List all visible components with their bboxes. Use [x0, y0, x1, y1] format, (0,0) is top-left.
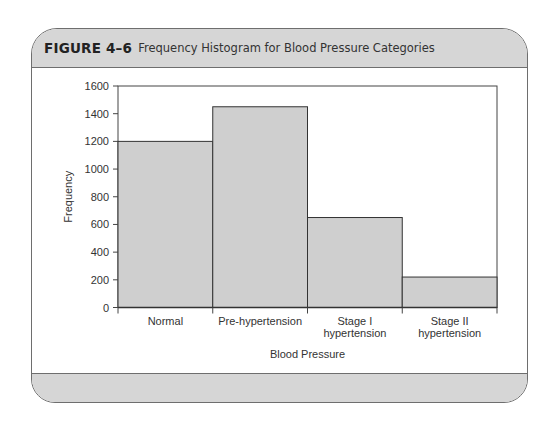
x-category-label: Stage II	[431, 315, 469, 327]
x-category-label: hypertension	[323, 327, 386, 339]
y-tick-label: 1400	[85, 108, 109, 120]
y-tick-label: 0	[103, 302, 109, 314]
y-tick-label: 800	[91, 191, 109, 203]
histogram-bar	[118, 141, 213, 307]
x-axis-title: Blood Pressure	[270, 348, 345, 360]
x-category-label: Pre-hypertension	[218, 315, 302, 327]
y-tick-label: 400	[91, 246, 109, 258]
x-category-label: Stage I	[337, 315, 372, 327]
x-category-label: hypertension	[418, 327, 481, 339]
y-tick-label: 1200	[85, 135, 109, 147]
histogram-bar	[213, 107, 308, 308]
histogram-bar	[308, 218, 403, 308]
plot-area: 02004006008001000120014001600NormalPre-h…	[62, 80, 497, 360]
y-tick-label: 200	[91, 274, 109, 286]
y-tick-label: 1000	[85, 163, 109, 175]
y-tick-label: 1600	[85, 80, 109, 92]
y-axis-title: Frequency	[62, 170, 74, 222]
x-category-label: Normal	[148, 315, 183, 327]
histogram-bar	[402, 277, 497, 307]
histogram-chart: 02004006008001000120014001600NormalPre-h…	[0, 0, 560, 429]
y-tick-label: 600	[91, 218, 109, 230]
